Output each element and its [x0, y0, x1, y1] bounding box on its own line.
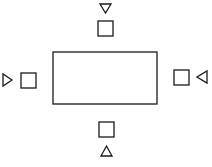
seat-bottom [99, 122, 114, 156]
triangle-right-icon [3, 74, 12, 86]
triangle-up-icon [101, 146, 112, 156]
seating-diagram [0, 0, 212, 167]
seat-square [99, 122, 114, 137]
seat-right [174, 70, 207, 85]
seat-square [174, 70, 189, 85]
triangle-down-icon [100, 4, 111, 13]
seat-square [21, 73, 36, 88]
table-rectangle [53, 52, 157, 104]
triangle-left-icon [197, 71, 207, 83]
seat-left [3, 73, 36, 88]
seat-square [98, 21, 113, 36]
seat-top [98, 4, 113, 36]
